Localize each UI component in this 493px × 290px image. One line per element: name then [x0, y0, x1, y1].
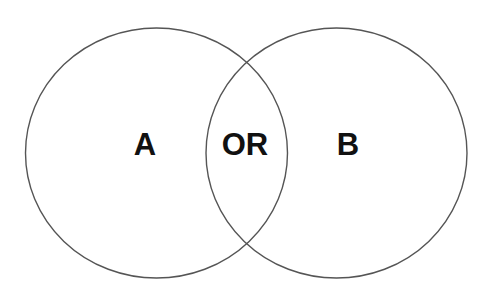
set-b-label: B — [337, 127, 359, 162]
intersection-label: OR — [222, 127, 269, 162]
set-a-label: A — [134, 127, 156, 162]
venn-diagram: A OR B — [0, 0, 493, 290]
